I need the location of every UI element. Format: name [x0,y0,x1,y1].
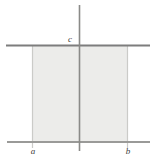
label-a: a [31,146,36,156]
figure-container: c a b [0,0,155,157]
label-c: c [68,34,72,44]
math-diagram-svg: c a b [0,0,155,157]
label-b: b [126,146,131,156]
